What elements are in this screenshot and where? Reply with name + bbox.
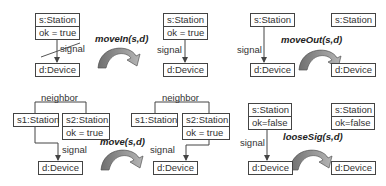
- node-name: s:Station: [332, 104, 374, 116]
- node-name: s:Station: [332, 14, 375, 26]
- device-node: d:Device: [250, 63, 295, 77]
- operation-label: looseSig(s,d): [283, 131, 343, 142]
- node-attribute: ok = true: [36, 26, 79, 39]
- node-attribute: ok=false: [249, 116, 291, 129]
- node-attribute: ok = true: [164, 26, 207, 39]
- station-node: s1:Station: [13, 113, 59, 127]
- node-name: s1:Station: [132, 114, 177, 126]
- transform-arrow-icon: [290, 150, 332, 170]
- edge-label: signal: [157, 44, 182, 55]
- node-attribute: ok=false: [332, 116, 374, 129]
- node-name: d:Device: [36, 64, 79, 76]
- device-node: d:Device: [331, 161, 376, 175]
- device-node: d:Device: [248, 161, 293, 175]
- device-node: d:Device: [153, 161, 198, 175]
- transform-arrow-icon: [101, 150, 143, 170]
- node-name: d:Device: [249, 162, 292, 174]
- edge-label: signal: [240, 137, 265, 148]
- station-node: s:Station: [331, 13, 376, 27]
- edge-label: signal: [60, 43, 85, 54]
- operation-label: moveIn(s,d): [95, 33, 148, 44]
- node-name: s2:Station: [63, 114, 109, 126]
- node-name: s1:Station: [14, 114, 58, 126]
- station-node: s:Station ok = true: [35, 13, 80, 40]
- node-name: s:Station: [249, 104, 291, 116]
- station-node: s:Station ok=false: [331, 103, 375, 130]
- node-name: d:Device: [332, 64, 375, 76]
- node-name: d:Device: [332, 162, 375, 174]
- node-name: s:Station: [164, 14, 207, 26]
- edge-label: neighbor: [162, 92, 199, 103]
- station-node: s2:Station ok = true: [182, 113, 230, 140]
- node-name: s2:Station: [183, 114, 229, 126]
- operation-label: moveOut(s,d): [281, 34, 342, 45]
- device-node: d:Device: [331, 63, 376, 77]
- edge-label: signal: [62, 144, 87, 155]
- node-name: d:Device: [251, 64, 294, 76]
- operation-label: move(s,d): [100, 136, 145, 147]
- device-node: d:Device: [35, 63, 80, 77]
- node-name: d:Device: [154, 162, 197, 174]
- node-attribute: ok = true: [183, 126, 229, 139]
- node-name: d:Device: [164, 64, 207, 76]
- station-node: s:Station ok=false: [248, 103, 292, 130]
- node-name: s:Station: [36, 14, 79, 26]
- device-node: d:Device: [163, 63, 208, 77]
- station-node: s1:Station: [131, 113, 178, 127]
- edge-label: signal: [237, 44, 262, 55]
- node-name: d:Device: [39, 162, 82, 174]
- edge-label: signal: [150, 144, 175, 155]
- transform-arrow-icon: [98, 48, 140, 68]
- device-node: d:Device: [38, 161, 83, 175]
- node-name: s:Station: [251, 14, 294, 26]
- station-node: s:Station ok = true: [163, 13, 208, 40]
- station-node: s:Station: [250, 13, 295, 27]
- edge-label: neighbor: [41, 92, 78, 103]
